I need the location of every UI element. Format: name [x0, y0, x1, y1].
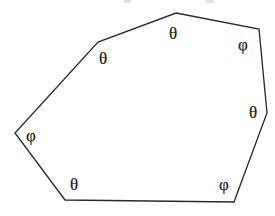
- angle-label-left: φ: [26, 127, 36, 144]
- angle-label-right: θ: [249, 104, 257, 121]
- diagram-canvas: θ φ θ φ θ φ θ: [0, 0, 275, 216]
- angle-label-upper-right: φ: [238, 36, 248, 53]
- angle-label-upper-left: θ: [99, 50, 107, 67]
- angle-label-top-apex: θ: [169, 25, 177, 42]
- scan-artifact-top-left: [124, 0, 131, 3]
- polygon-figure: [0, 0, 275, 216]
- scan-artifact-top-right: [206, 0, 214, 3]
- angle-label-lower-left: θ: [70, 176, 78, 193]
- angle-label-lower-right: φ: [219, 176, 229, 193]
